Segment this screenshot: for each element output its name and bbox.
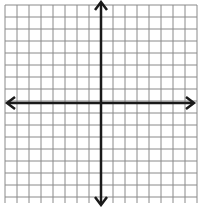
coordinate-grid bbox=[0, 0, 200, 207]
